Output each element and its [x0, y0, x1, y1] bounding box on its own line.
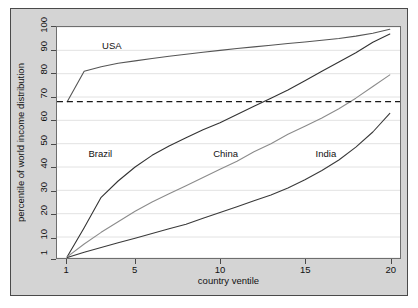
y-tick-label: 100 [39, 17, 49, 33]
y-tick-label: 80 [39, 64, 49, 75]
figure-panel: percentile of world income distribution … [10, 8, 408, 296]
y-tick-label: 90 [39, 41, 49, 52]
x-tick-label: 5 [132, 265, 137, 275]
series-line-india [67, 113, 390, 257]
series-label-china: China [213, 149, 238, 159]
y-tick-label: 40 [39, 158, 49, 169]
x-tick-label: 10 [215, 265, 226, 275]
y-tick-label: 50 [39, 135, 49, 146]
series-label-usa: USA [102, 41, 122, 51]
plot-area [56, 26, 401, 259]
y-axis: 1102030405060708090100 [11, 26, 56, 259]
x-axis-title: country ventile [56, 275, 401, 286]
y-tick-label: 60 [39, 111, 49, 122]
x-tick-label: 20 [385, 265, 396, 275]
y-tick-label: 1 [39, 250, 49, 255]
y-tick-label: 30 [39, 182, 49, 193]
chart-canvas [57, 27, 400, 258]
x-tick-label: 15 [300, 265, 311, 275]
x-tick-label: 1 [64, 265, 69, 275]
y-tick-label: 70 [39, 88, 49, 99]
y-tick-label: 20 [39, 205, 49, 216]
series-label-brazil: Brazil [88, 149, 112, 159]
series-label-india: India [316, 149, 337, 159]
y-tick-label: 10 [39, 229, 49, 240]
